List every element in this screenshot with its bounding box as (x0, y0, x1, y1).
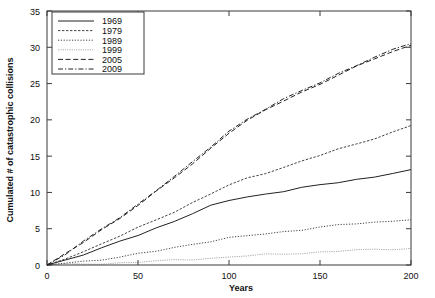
data-series (47, 44, 411, 265)
legend-label-1989[interactable]: 1989 (102, 36, 122, 46)
x-tick-label: 200 (403, 271, 418, 281)
line-chart: 05010015020005101520253035 1969197919891… (0, 0, 435, 298)
y-tick-label: 25 (30, 79, 40, 89)
x-axis-title: Years (229, 283, 253, 293)
x-tick-label: 150 (312, 271, 327, 281)
legend-label-2005[interactable]: 2005 (102, 55, 122, 65)
y-tick-label: 20 (30, 115, 40, 125)
y-tick-label: 0 (35, 261, 40, 271)
x-tick-label: 100 (221, 271, 236, 281)
x-tick-label: 50 (133, 271, 143, 281)
chart-legend[interactable]: 196919791989199920052009 (52, 12, 144, 74)
legend-label-1969[interactable]: 1969 (102, 16, 122, 26)
y-axis-title: Cumulated # of catastrophic collisions (5, 57, 15, 222)
series-line-2005 (47, 45, 411, 265)
y-tick-label: 5 (35, 224, 40, 234)
y-tick-label: 30 (30, 43, 40, 53)
chart-figure: 05010015020005101520253035 1969197919891… (0, 0, 435, 298)
legend-label-2009[interactable]: 2009 (102, 64, 122, 74)
legend-label-1999[interactable]: 1999 (102, 45, 122, 55)
series-line-1989 (47, 220, 411, 265)
y-tick-label: 10 (30, 188, 40, 198)
series-line-1979 (47, 126, 411, 265)
x-tick-label: 0 (44, 271, 49, 281)
series-line-2009 (47, 44, 411, 265)
y-tick-label: 15 (30, 152, 40, 162)
y-tick-label: 35 (30, 7, 40, 17)
series-line-1969 (47, 170, 411, 265)
legend-label-1979[interactable]: 1979 (102, 26, 122, 36)
